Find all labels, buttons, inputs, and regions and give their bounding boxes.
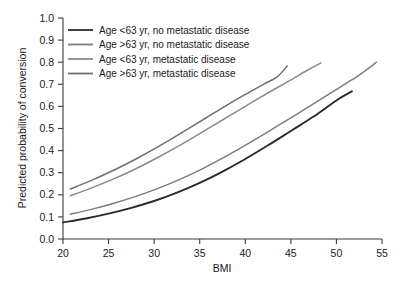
y-tick-label: 0.3 — [39, 166, 54, 178]
series-group — [63, 62, 377, 222]
y-tick-label: 0.6 — [39, 100, 54, 112]
x-tick-label: 55 — [376, 247, 388, 259]
y-tick-label: 0.2 — [39, 188, 54, 200]
y-tick-label: 0.4 — [39, 144, 54, 156]
legend-label-4: Age >63 yr, metastatic disease — [99, 68, 236, 79]
y-tick-label: 0.5 — [39, 122, 54, 134]
line-chart-canvas: 0.00.10.20.30.40.50.60.70.80.91.0 202530… — [0, 0, 400, 282]
x-tick-label: 40 — [239, 247, 251, 259]
y-tick-label: 0.7 — [39, 78, 54, 90]
y-tick-label: 0.8 — [39, 56, 54, 68]
series-line-3 — [70, 63, 321, 196]
chart-legend: Age <63 yr, no metastatic diseaseAge >63… — [68, 25, 250, 80]
x-tick-label: 25 — [103, 247, 115, 259]
y-tick-label: 0.0 — [39, 233, 54, 245]
x-tick-label: 35 — [194, 247, 206, 259]
x-axis-tick-group: 2025303540455055 — [57, 239, 388, 259]
legend-label-3: Age <63 yr, metastatic disease — [99, 54, 236, 65]
series-line-4 — [70, 66, 287, 189]
legend-label-1: Age <63 yr, no metastatic disease — [99, 25, 250, 36]
series-line-2 — [70, 62, 376, 214]
x-tick-label: 45 — [285, 247, 297, 259]
chart-figure: 0.00.10.20.30.40.50.60.70.80.91.0 202530… — [0, 0, 400, 282]
y-tick-label: 0.1 — [39, 211, 54, 223]
x-tick-label: 50 — [331, 247, 343, 259]
y-tick-label: 0.9 — [39, 34, 54, 46]
legend-label-2: Age >63 yr, no metastatic disease — [99, 39, 250, 50]
x-axis-title: BMI — [213, 262, 232, 274]
y-axis-title: Predicted probability of conversion — [16, 48, 28, 209]
y-axis-tick-group: 0.00.10.20.30.40.50.60.70.80.91.0 — [39, 12, 63, 245]
y-tick-label: 1.0 — [39, 12, 54, 24]
series-line-1 — [63, 91, 352, 222]
x-tick-label: 20 — [57, 247, 69, 259]
x-tick-label: 30 — [148, 247, 160, 259]
